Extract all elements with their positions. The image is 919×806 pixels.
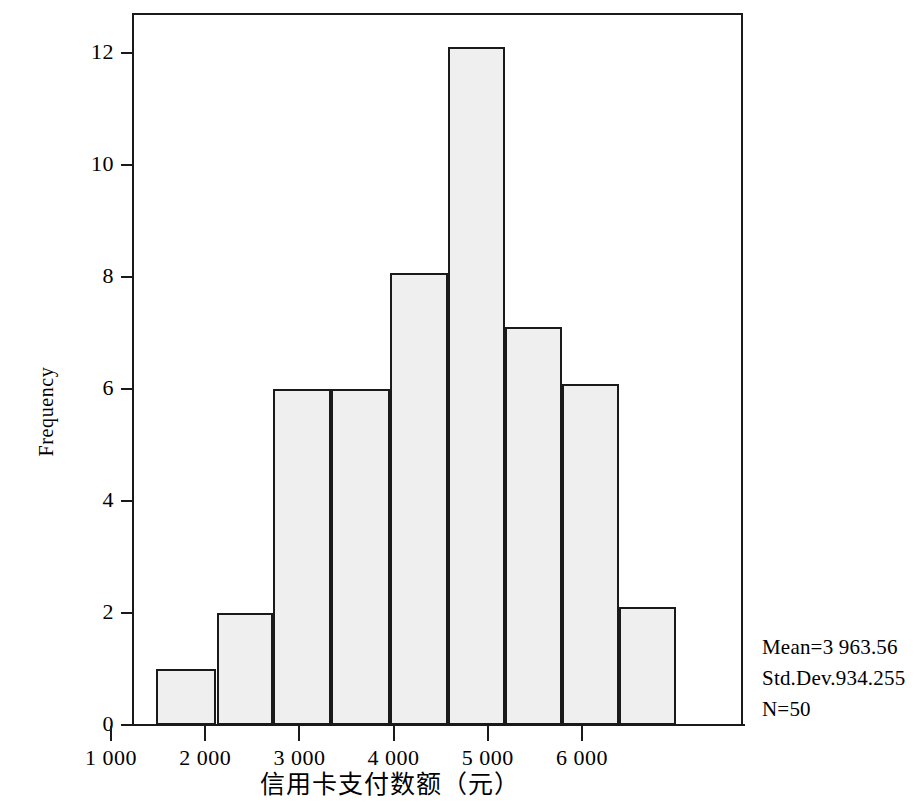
y-axis-tick [121, 724, 133, 726]
histogram-bar [331, 389, 389, 725]
x-axis-tick [110, 726, 112, 741]
histogram-bar [619, 607, 676, 725]
stat-mean: Mean=3 963.56 [762, 632, 919, 663]
x-axis-title: 信用卡支付数额（元） [0, 770, 919, 800]
stat-n: N=50 [762, 694, 919, 725]
y-axis-tick-label: 4 [54, 489, 114, 511]
histogram-bar [562, 384, 619, 725]
stat-std-dev: Std.Dev.934.255 [762, 663, 919, 694]
x-axis-tick [298, 726, 300, 741]
y-axis-tick [121, 276, 133, 278]
y-axis-tick-label: 12 [54, 41, 114, 63]
y-axis-tick [121, 164, 133, 166]
x-axis-tick-label: 6 000 [522, 745, 642, 771]
histogram-bar [217, 613, 274, 725]
histogram-bar [156, 669, 216, 725]
statistics-annotation: Mean=3 963.56 Std.Dev.934.255 N=50 [762, 632, 919, 725]
y-axis-tick [121, 500, 133, 502]
histogram-bar [448, 47, 505, 725]
x-axis-tick [581, 726, 583, 741]
y-axis-tick-label: 8 [54, 265, 114, 287]
histogram-bar [273, 389, 331, 725]
y-axis-tick-label: 2 [54, 601, 114, 623]
y-axis-tick-label: 6 [54, 377, 114, 399]
y-axis-tick-label: 10 [54, 153, 114, 175]
x-axis-tick [487, 726, 489, 741]
y-axis-tick-label: 0 [54, 713, 114, 735]
y-axis-tick [121, 612, 133, 614]
y-axis-title: Frequency [35, 332, 58, 492]
y-axis-tick [121, 52, 133, 54]
histogram-bar [390, 273, 448, 725]
histogram-bar [505, 327, 562, 725]
x-axis-tick [204, 726, 206, 741]
y-axis-tick [121, 388, 133, 390]
x-axis-tick [393, 726, 395, 741]
histogram-figure: 024681012 Frequency 1 0002 0003 0004 000… [0, 0, 919, 806]
